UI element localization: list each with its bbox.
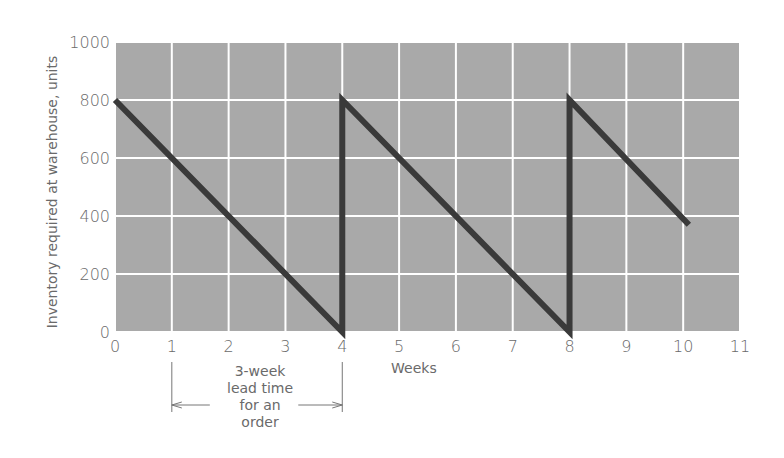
y-tick-label: 200: [79, 265, 110, 284]
x-tick-label: 5: [394, 337, 404, 356]
x-tick-label: 8: [564, 337, 574, 356]
y-tick-label: 600: [79, 149, 110, 168]
x-tick-label: 3: [280, 337, 290, 356]
x-tick-label: 6: [451, 337, 461, 356]
x-axis-ticks: 01234567891011: [110, 337, 750, 356]
annotation-text: lead time: [227, 380, 293, 396]
annotation-text: 3-week: [235, 363, 287, 379]
x-tick-label: 10: [673, 337, 693, 356]
y-tick-label: 0: [100, 323, 110, 342]
inventory-chart: 02004006008001000 01234567891011 Invento…: [0, 0, 784, 458]
x-tick-label: 0: [110, 337, 120, 356]
annotation-text: order: [241, 414, 279, 430]
y-tick-label: 800: [79, 91, 110, 110]
y-axis-ticks: 02004006008001000: [69, 33, 110, 342]
y-tick-label: 1000: [69, 33, 110, 52]
x-tick-label: 2: [224, 337, 234, 356]
x-tick-label: 7: [508, 337, 518, 356]
y-axis-label: Inventory required at warehouse, units: [44, 56, 60, 329]
x-tick-label: 1: [167, 337, 177, 356]
x-tick-label: 11: [730, 337, 750, 356]
x-tick-label: 9: [621, 337, 631, 356]
x-axis-label: Weeks: [391, 360, 437, 376]
annotation-text: for an: [239, 397, 280, 413]
lead-time-annotation: 3-weeklead timefor anorder: [172, 362, 342, 430]
y-tick-label: 400: [79, 207, 110, 226]
x-tick-label: 4: [337, 337, 347, 356]
